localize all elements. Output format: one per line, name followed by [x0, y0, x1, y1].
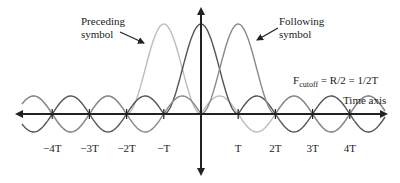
preceding-label-line1: Preceding: [81, 15, 125, 27]
following-label-line1: Following: [279, 15, 325, 27]
cutoff-formula: Fcutoff = R/2 = 1/2T: [293, 74, 378, 89]
tick-labels: −4T−3T−2T−TT2T3T4T: [43, 142, 356, 154]
tick-label: −4T: [43, 142, 62, 154]
tick-label: 3T: [306, 142, 319, 154]
following-arrow: [257, 28, 278, 40]
sinc-pulse-diagram: −4T−3T−2T−TT2T3T4T Preceding symbol Foll…: [0, 0, 400, 183]
cutoff-equation: = R/2 = 1/2T: [318, 74, 378, 86]
tick-label: −2T: [117, 142, 136, 154]
tick-label: T: [235, 142, 242, 154]
tick-label: −T: [157, 142, 170, 154]
tick-label: 4T: [344, 142, 357, 154]
preceding-label-line2: symbol: [81, 28, 113, 40]
cutoff-subscript: cutoff: [299, 80, 318, 89]
time-axis-label: Time axis: [343, 94, 386, 106]
tick-label: 2T: [269, 142, 282, 154]
following-label-line2: symbol: [279, 28, 311, 40]
preceding-arrow: [120, 32, 144, 43]
tick-label: −3T: [80, 142, 99, 154]
